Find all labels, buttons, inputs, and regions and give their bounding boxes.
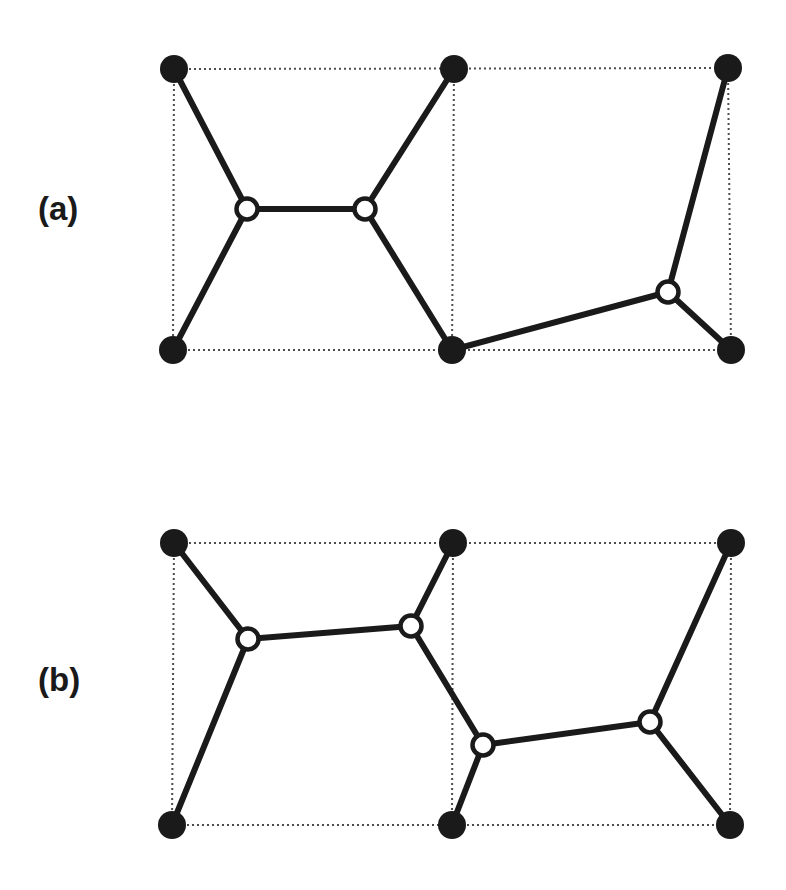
b-cell-right	[730, 543, 731, 825]
b-bond-oul-our	[248, 626, 411, 639]
panel-b-label: (b)	[38, 663, 80, 696]
b-bond-olr-br	[650, 722, 730, 825]
b-bond-tl-oul	[174, 543, 248, 639]
b-top-right	[717, 529, 745, 557]
a-open-far	[658, 282, 679, 303]
b-open-upper-left	[238, 629, 259, 650]
b-top-middle	[439, 529, 467, 557]
a-cell-left	[173, 69, 174, 350]
a-bond-bm-of	[452, 292, 668, 350]
b-bond-oul-bl	[172, 639, 248, 825]
b-bond-oll-olr	[483, 722, 650, 745]
lattice-diagram	[0, 0, 786, 890]
a-bottom-right	[717, 336, 745, 364]
open-node-layer	[237, 199, 679, 756]
a-bottom-middle	[438, 336, 466, 364]
a-open-left	[237, 199, 258, 220]
a-open-right	[355, 199, 376, 220]
b-bond-olr-tr	[650, 543, 731, 722]
a-bottom-left	[159, 336, 187, 364]
a-cell-middle	[452, 69, 454, 350]
a-top-right	[714, 54, 742, 82]
a-cell-right	[728, 68, 731, 350]
b-bond-our-oll	[411, 626, 483, 745]
a-bond-or-tm	[365, 69, 454, 209]
b-open-upper-right	[401, 616, 422, 637]
b-cell-middle	[452, 543, 453, 825]
b-open-lower-right	[640, 712, 661, 733]
b-top-left	[160, 529, 188, 557]
b-bottom-right	[716, 811, 744, 839]
b-bottom-middle	[438, 811, 466, 839]
b-bottom-left	[158, 811, 186, 839]
figure-root: (a) (b)	[0, 0, 786, 890]
panel-a-label: (a)	[38, 192, 78, 225]
a-bond-ol-bl	[173, 209, 247, 350]
a-top-middle	[440, 55, 468, 83]
b-open-lower-left	[473, 735, 494, 756]
b-cell-left	[172, 543, 174, 825]
a-top-left	[160, 55, 188, 83]
a-bond-of-tr	[668, 68, 728, 292]
a-bond-tl-ol	[174, 69, 247, 209]
a-bond-or-bm	[365, 209, 452, 350]
